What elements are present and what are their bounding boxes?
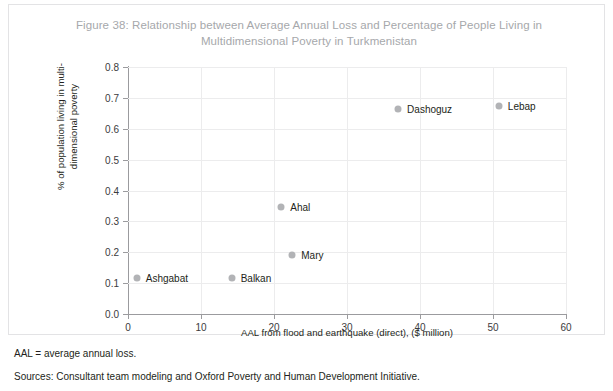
footnote-abbreviation: AAL = average annual loss. xyxy=(14,348,136,359)
y-tick-label: 0.2 xyxy=(105,247,119,258)
data-point-label: Dashoguz xyxy=(407,103,452,114)
y-tick-mark xyxy=(123,129,128,130)
y-tick-label: 0.7 xyxy=(105,92,119,103)
data-point-label: Mary xyxy=(301,250,323,261)
x-tick-mark xyxy=(274,314,275,319)
data-point[interactable] xyxy=(278,204,285,211)
y-tick-label: 0.1 xyxy=(105,278,119,289)
data-point-label: Ashgabat xyxy=(146,273,188,284)
figure-title-line-1: Figure 38: Relationship between Average … xyxy=(76,19,496,31)
x-axis-title: AAL from flood and earthquake (direct), … xyxy=(128,327,566,338)
x-gridline xyxy=(274,67,275,314)
y-tick-mark xyxy=(123,67,128,68)
figure-frame: Figure 38: Relationship between Average … xyxy=(8,4,605,335)
x-tick-mark xyxy=(493,314,494,319)
data-point-label: Lebap xyxy=(508,100,536,111)
data-point[interactable] xyxy=(228,275,235,282)
x-gridline xyxy=(347,67,348,314)
data-point-label: Balkan xyxy=(241,273,272,284)
x-tick-mark xyxy=(128,314,129,319)
y-tick-label: 0.6 xyxy=(105,123,119,134)
y-tick-mark xyxy=(123,252,128,253)
data-point[interactable] xyxy=(495,102,502,109)
y-tick-label: 0.8 xyxy=(105,62,119,73)
data-point[interactable] xyxy=(395,105,402,112)
y-axis-title: % of population living in multi- dimensi… xyxy=(54,63,80,190)
y-tick-label: 0.5 xyxy=(105,154,119,165)
plot-right-edge xyxy=(566,67,567,314)
footnote-sources: Sources: Consultant team modeling and Ox… xyxy=(14,371,420,382)
y-tick-label: 0.0 xyxy=(105,309,119,320)
data-point[interactable] xyxy=(289,252,296,259)
y-tick-mark xyxy=(123,98,128,99)
plot-area: 0.00.10.20.30.40.50.60.70.80102030405060… xyxy=(128,67,566,314)
x-tick-mark xyxy=(566,314,567,319)
y-axis-title-line-2: dimensional poverty xyxy=(67,63,80,190)
x-gridline xyxy=(201,67,202,314)
x-gridline xyxy=(493,67,494,314)
x-tick-mark xyxy=(420,314,421,319)
x-tick-mark xyxy=(347,314,348,319)
x-tick-mark xyxy=(201,314,202,319)
y-axis-title-line-1: % of population living in multi- xyxy=(54,63,67,190)
data-point[interactable] xyxy=(133,275,140,282)
y-tick-label: 0.4 xyxy=(105,185,119,196)
figure-title: Figure 38: Relationship between Average … xyxy=(69,17,549,49)
data-point-label: Ahal xyxy=(290,202,310,213)
y-tick-mark xyxy=(123,283,128,284)
y-tick-mark xyxy=(123,191,128,192)
y-tick-mark xyxy=(123,160,128,161)
y-tick-label: 0.3 xyxy=(105,216,119,227)
y-tick-mark xyxy=(123,221,128,222)
